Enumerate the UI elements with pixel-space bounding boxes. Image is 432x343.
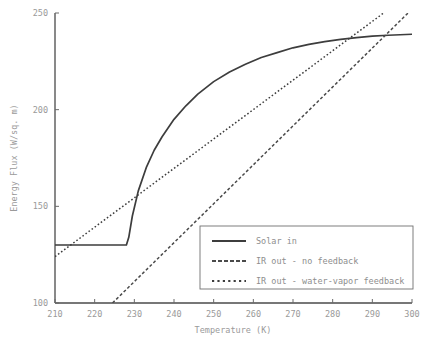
x-tick-label: 240	[166, 309, 181, 319]
x-tick-label: 250	[206, 309, 221, 319]
x-tick-label: 300	[404, 309, 419, 319]
energy-flux-chart: 210220230240250260270280290300 100150200…	[0, 0, 432, 343]
legend-label-solar-in: Solar in	[256, 236, 297, 246]
legend: Solar in IR out - no feedback IR out - w…	[200, 226, 413, 289]
x-tick-label: 230	[127, 309, 142, 319]
x-tick-label: 260	[246, 309, 261, 319]
x-tick-label: 290	[365, 309, 380, 319]
y-tick-label: 200	[33, 105, 48, 115]
x-tick-label: 270	[285, 309, 300, 319]
y-tick-label: 100	[33, 298, 48, 308]
y-axis-title: Energy Flux (W/sq. m)	[9, 104, 19, 211]
legend-label-ir-out-water-vapor-feedback: IR out - water-vapor feedback	[256, 276, 404, 286]
y-tick-label: 250	[33, 8, 48, 18]
chart-container: 210220230240250260270280290300 100150200…	[0, 0, 432, 343]
legend-label-ir-out-no-feedback: IR out - no feedback	[256, 256, 358, 266]
x-tick-label: 210	[47, 309, 62, 319]
y-tick-label: 150	[33, 201, 48, 211]
x-axis-title: Temperature (K)	[195, 325, 272, 335]
x-tick-label: 280	[325, 309, 340, 319]
x-tick-label: 220	[87, 309, 102, 319]
